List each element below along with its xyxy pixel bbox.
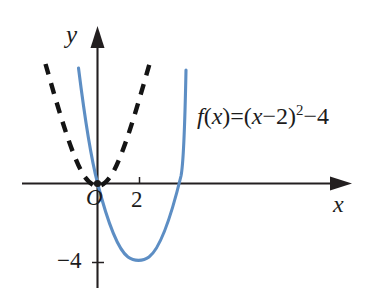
- x-axis-label: x: [333, 192, 344, 216]
- formula-variable: x: [212, 103, 223, 129]
- y-tick-label-negative-4: −4: [57, 249, 81, 272]
- transformed-parabola-blue-curve: [79, 68, 187, 260]
- formula-close-paren: ): [288, 103, 296, 129]
- formula-f-symbol: f: [197, 103, 204, 129]
- x-tick-label-2: 2: [131, 188, 143, 211]
- y-axis-label: y: [66, 22, 77, 47]
- formula-exponent: 2: [296, 102, 303, 118]
- formula-close-paren-equals: )=(: [222, 103, 252, 129]
- origin-label: O: [86, 186, 103, 209]
- formula-variable-2: x: [252, 103, 263, 129]
- x-axis-arrowhead: [330, 177, 352, 191]
- formula-minus-two: −2: [263, 103, 289, 129]
- formula-minus-four: −4: [304, 103, 330, 129]
- formula-open-paren: (: [204, 103, 212, 129]
- quadratic-function-figure: y x O 2 −4 f(x)=(x−2)2−4: [0, 0, 367, 301]
- graph-canvas: [0, 0, 367, 301]
- y-axis-arrowhead: [91, 26, 105, 48]
- function-equation-label: f(x)=(x−2)2−4: [197, 104, 329, 128]
